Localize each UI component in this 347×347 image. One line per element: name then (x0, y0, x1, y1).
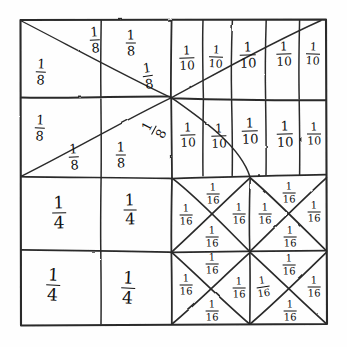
vertical-midline (171, 20, 172, 324)
eighths-diagonal-nw-se (22, 21, 172, 98)
eighths-diagonal-sw-ne (21, 98, 171, 177)
horizontal-line-upper-quarter (21, 175, 326, 179)
outer-square-border (21, 20, 328, 326)
eighths-diagonal-center-se (172, 98, 250, 177)
vertical-quarter-line-left (101, 20, 102, 324)
fraction-square-diagram: 1818181818181818110110110110110110110110… (0, 0, 347, 347)
diagram-strokes (0, 0, 347, 347)
tenths-strip-lines (203, 20, 300, 176)
